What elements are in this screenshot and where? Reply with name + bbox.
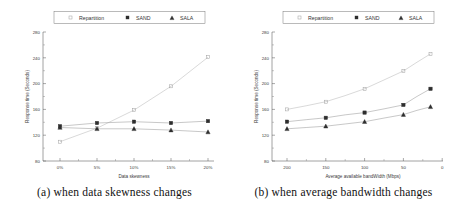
legend-label-repartition: Repartition <box>79 15 104 21</box>
chart-a-x-axis-label: Data skewness <box>118 174 150 179</box>
chart-b-xtick-200: 200 <box>283 165 291 170</box>
chart-b-xtick-100: 100 <box>361 165 369 170</box>
chart-b-series-sala-line <box>287 107 431 129</box>
chart-a-legend: Repartition SAND SALA <box>54 12 205 24</box>
legend-label-repartition: Repartition <box>308 15 333 21</box>
chart-b-series-sand-markers <box>285 87 432 123</box>
chart-a-x-ticks: 0% 5% 10% 15% 20% <box>57 158 213 170</box>
chart-b-series-repartition-markers <box>286 52 433 111</box>
chart-b-xtick-0: 0 <box>441 165 444 170</box>
panel-b: Repartition SAND SALA 280 240 <box>229 0 458 216</box>
panel-a: Repartition SAND SALA 280 240 <box>0 0 229 216</box>
chart-b-ytick-120: 120 <box>262 133 270 138</box>
chart-b-plot-area: Repartition SAND SALA 280 240 <box>229 0 458 184</box>
chart-b-svg: Repartition SAND SALA 280 240 <box>229 0 458 184</box>
legend-label-sala: SALA <box>409 15 423 21</box>
chart-a-ytick-80: 80 <box>35 159 40 164</box>
chart-b-legend: Repartition SAND SALA <box>283 12 434 24</box>
chart-a-ytick-240: 240 <box>33 56 41 61</box>
chart-a-ytick-280: 280 <box>33 30 41 35</box>
chart-a-ytick-160: 160 <box>33 107 41 112</box>
chart-a-xtick-5: 5% <box>94 165 100 170</box>
chart-a-y-ticks: 280 240 200 160 120 80 <box>33 30 46 164</box>
chart-a-xtick-0: 0% <box>57 165 63 170</box>
figure-two-panel-charts: Repartition SAND SALA 280 240 <box>0 0 458 216</box>
legend-label-sand: SAND <box>136 15 151 21</box>
chart-a-caption: (a) when data skewness changes <box>0 186 229 198</box>
chart-b-ytick-280: 280 <box>262 30 270 35</box>
chart-a-ytick-200: 200 <box>33 81 41 86</box>
chart-b-y-ticks: 280 240 200 160 120 80 <box>262 30 275 164</box>
chart-b-y-axis-label: Response time (Seconds) <box>254 70 259 123</box>
chart-a-y-axis-label: Response time (Seconds) <box>25 70 30 123</box>
chart-b-ytick-200: 200 <box>262 81 270 86</box>
chart-b-ytick-80: 80 <box>264 159 269 164</box>
chart-b-caption: (b) when average bandwidth changes <box>229 186 458 198</box>
chart-b-ytick-160: 160 <box>262 107 270 112</box>
chart-a-series-sala-markers <box>58 125 210 134</box>
chart-b-x-axis-label: Average available bandWidth (Mbps) <box>325 174 401 179</box>
chart-a-ytick-120: 120 <box>33 133 41 138</box>
legend-label-sand: SAND <box>365 15 380 21</box>
chart-b-xtick-150: 150 <box>322 165 330 170</box>
chart-a-xtick-10: 10% <box>130 165 139 170</box>
chart-a-xtick-15: 15% <box>167 165 176 170</box>
legend-marker-sand-icon <box>355 16 358 19</box>
chart-b-series-sala-markers <box>285 105 433 131</box>
chart-b-xtick-50: 50 <box>401 165 406 170</box>
chart-b-x-ticks: 200 150 100 50 0 <box>283 158 444 170</box>
legend-label-sala: SALA <box>180 15 194 21</box>
chart-a-svg: Repartition SAND SALA 280 240 <box>0 0 229 184</box>
chart-a-xtick-20: 20% <box>204 165 213 170</box>
legend-marker-sand-icon <box>126 16 129 19</box>
chart-b-ytick-240: 240 <box>262 56 270 61</box>
chart-a-plot-area: Repartition SAND SALA 280 240 <box>0 0 229 184</box>
